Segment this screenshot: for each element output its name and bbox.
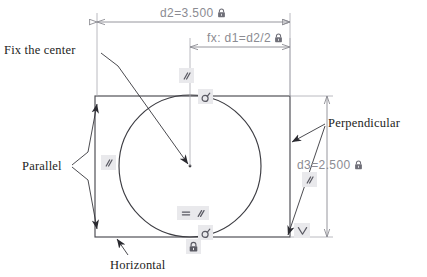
coincident-point-icon [200, 91, 212, 103]
parallel-icon [181, 70, 193, 82]
d3-dimension-value: d3=2.500 [297, 158, 351, 172]
fix-badge-bottom[interactable] [186, 239, 201, 254]
padlock-icon [274, 32, 283, 46]
padlock-icon [188, 241, 199, 253]
perpendicular-icon [296, 225, 309, 237]
fix-the-center-leader [101, 53, 188, 164]
horizontal-leader [117, 239, 128, 255]
parallel-leader [72, 104, 97, 229]
d1-dimension-value: fx: d1=d2/2 [207, 31, 271, 45]
parallel-badge-right[interactable] [302, 172, 317, 187]
perpendicular-badge-corner[interactable] [294, 223, 310, 238]
parallel-badge-left[interactable] [101, 155, 116, 170]
perpendicular-label: Perpendicular [328, 116, 400, 131]
coincident-badge-top[interactable] [198, 89, 213, 104]
horizontal-label: Horizontal [110, 258, 165, 273]
cad-sketch-canvas[interactable]: Fix the center Parallel Horizontal Perpe… [0, 0, 427, 277]
parallel-badge-top[interactable] [179, 68, 194, 83]
d2-dimension-value: d2=3.500 [160, 6, 214, 20]
padlock-icon [354, 159, 363, 173]
parallel-label: Parallel [22, 159, 62, 174]
d1-dimension-text[interactable]: fx: d1=d2/2 [207, 31, 283, 46]
coincident-point-icon [200, 227, 212, 239]
equal-parallel-badge-bottom[interactable] [177, 206, 209, 220]
fix-the-center-label: Fix the center [4, 43, 76, 58]
parallel-icon [195, 208, 207, 219]
coincident-badge-bottom[interactable] [198, 225, 213, 240]
d2-dimension-text[interactable]: d2=3.500 [160, 6, 226, 21]
d3-dimension-text[interactable]: d3=2.500 [297, 158, 363, 173]
parallel-icon [103, 157, 115, 169]
equal-icon [180, 208, 192, 219]
parallel-icon [304, 174, 316, 186]
padlock-icon [217, 7, 226, 21]
